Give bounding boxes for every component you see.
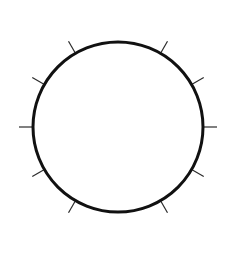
circle-diagram [0,0,238,255]
figure-canvas [0,0,238,255]
